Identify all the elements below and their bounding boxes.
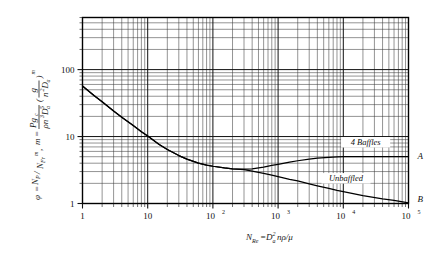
unbaffled-curve-label: Unbaffled [329, 173, 364, 183]
y-label-comma: , [34, 149, 44, 151]
x-tick-label: 10 [143, 211, 153, 221]
x-tick-label: 1 [80, 211, 85, 221]
y-label-frac2-denominator: n [40, 92, 50, 97]
y-label-equals-2: = [32, 131, 42, 137]
chart-background [0, 0, 434, 254]
y-label-frac1-denominator: ρn [40, 119, 50, 129]
x-label-exp-2: 2 [273, 231, 276, 237]
svg-text:10: 10 [271, 211, 281, 221]
y-label-equals-1: = [32, 186, 42, 192]
svg-text:3: 3 [287, 209, 290, 215]
svg-text:10: 10 [402, 211, 412, 221]
y-label-Fr-sub: Fr [40, 156, 46, 164]
y-label-frac1-numerator: Pg [28, 118, 38, 129]
y-label-frac1-num-sub: c [33, 113, 39, 116]
y-label-P-sub: P [35, 175, 41, 180]
curve-b-endpoint-label: B [418, 194, 424, 204]
y-tick-label: 100 [61, 65, 75, 75]
x-label-Re-sub: Re [251, 238, 259, 244]
y-tick-label: 1 [70, 199, 75, 209]
y-label-m: m [32, 138, 42, 145]
svg-text:10: 10 [143, 211, 153, 221]
y-label-frac2-a-sub: a [45, 80, 51, 83]
y-label-outer-exp-m: m [30, 70, 36, 75]
y-label-paren-close: ) [34, 76, 44, 80]
y-label-frac1-a-sub: a [45, 106, 51, 109]
svg-text:10: 10 [336, 211, 346, 221]
y-label-phi: φ [32, 195, 42, 200]
svg-text:2: 2 [222, 209, 225, 215]
chart-canvas: 110102103104105 110100 4 BafflesUnbaffle… [0, 0, 434, 254]
curve-a-endpoint-label: A [417, 151, 424, 161]
figure-log-log-power-number-chart: 110102103104105 110100 4 BafflesUnbaffle… [0, 0, 434, 254]
svg-text:1: 1 [80, 211, 85, 221]
svg-text:5: 5 [418, 209, 421, 215]
y-tick-label: 10 [66, 132, 76, 142]
baffled-curve-label: 4 Baffles [351, 137, 382, 147]
x-label-tail: nρ/μ [277, 232, 293, 242]
svg-text:4: 4 [352, 209, 355, 215]
y-label-frac1-den-exp5: 5 [39, 106, 45, 109]
svg-text:10: 10 [206, 211, 216, 221]
x-label-a-sub: a [273, 238, 276, 244]
y-label-frac2-numerator: g [28, 88, 38, 93]
